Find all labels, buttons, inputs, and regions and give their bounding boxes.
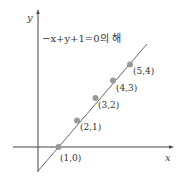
y-axis-label: y (26, 12, 33, 23)
point-1-0 (56, 144, 62, 150)
point-label-3-2: (3,2) (98, 100, 119, 110)
y-axis-arrow-icon (36, 9, 39, 14)
equation-label: −x+y+1=0의 해 (42, 32, 121, 44)
point-label-5-4: (5,4) (133, 66, 154, 76)
x-axis-label: x (165, 152, 171, 163)
coordinate-diagram: y x −x+y+1=0의 해 (1,0) (2,1) (3,2) (4,3) … (0, 0, 180, 177)
x-axis-arrow-icon (169, 145, 174, 148)
point-label-4-3: (4,3) (116, 83, 137, 93)
point-label-1-0: (1,0) (60, 153, 81, 163)
point-label-2-1: (2,1) (80, 122, 101, 132)
